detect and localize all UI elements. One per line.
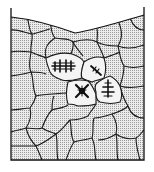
cell-diagram (0, 0, 154, 172)
